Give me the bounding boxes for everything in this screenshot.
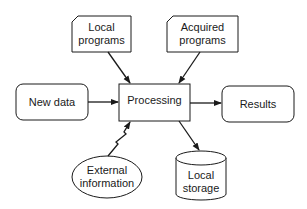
external-information-label: External information (72, 156, 142, 198)
lightning-arrow-external-to-processing (108, 122, 130, 156)
local-storage-label: Local storage (176, 165, 226, 199)
external-information-line2: information (80, 177, 134, 190)
results-label: Results (222, 86, 294, 122)
acquired-programs-label: Acquired programs (167, 16, 238, 52)
arrow-processing-to-local-storage (179, 121, 199, 150)
processing-text: Processing (127, 94, 181, 107)
arrow-local-programs-to-processing (108, 52, 130, 83)
diagram-canvas: Local programs Acquired programs New dat… (0, 0, 307, 209)
new-data-label: New data (16, 84, 88, 120)
local-storage-line1: Local (188, 169, 214, 182)
results-text: Results (240, 98, 277, 111)
acquired-programs-line2: programs (179, 34, 225, 47)
new-data-text: New data (29, 96, 75, 109)
arrow-acquired-programs-to-processing (179, 52, 200, 83)
local-programs-line2: programs (78, 34, 124, 47)
external-information-line1: External (87, 164, 127, 177)
local-storage-line2: storage (183, 182, 220, 195)
local-programs-line1: Local (88, 21, 114, 34)
local-programs-label: Local programs (72, 16, 131, 52)
processing-label: Processing (119, 82, 190, 119)
acquired-programs-line1: Acquired (181, 21, 224, 34)
